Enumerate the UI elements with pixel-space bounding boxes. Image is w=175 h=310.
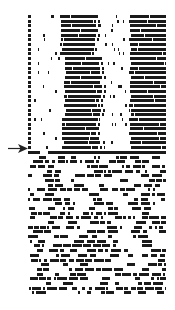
activity-segment — [130, 81, 153, 84]
raster-row — [28, 268, 166, 271]
activity-segment — [28, 226, 33, 229]
activity-segment — [145, 76, 166, 79]
activity-segment — [119, 52, 120, 55]
activity-segment — [130, 15, 149, 18]
activity-segment — [129, 104, 133, 107]
activity-segment — [112, 113, 113, 116]
activity-segment — [136, 170, 140, 173]
activity-segment — [62, 132, 90, 135]
activity-segment — [131, 34, 144, 37]
activity-segment — [129, 20, 147, 23]
activity-segment — [115, 216, 122, 219]
activity-segment — [65, 67, 72, 70]
activity-segment — [152, 165, 160, 168]
raster-row — [28, 29, 166, 32]
activity-segment — [63, 207, 65, 210]
activity-segment — [145, 287, 154, 290]
activity-segment — [82, 62, 99, 65]
activity-segment — [97, 198, 102, 201]
activity-segment — [96, 160, 99, 163]
activity-segment — [68, 221, 77, 224]
activity-segment — [157, 57, 166, 60]
activity-segment — [130, 29, 140, 32]
activity-segment — [43, 287, 45, 290]
activity-segment — [152, 221, 160, 224]
activity-segment — [60, 15, 70, 18]
activity-segment — [28, 99, 31, 102]
raster-row — [28, 259, 166, 262]
activity-segment — [30, 254, 39, 257]
activity-segment — [124, 249, 128, 252]
activity-segment — [96, 268, 101, 271]
activity-segment — [28, 127, 31, 130]
raster-row — [28, 146, 166, 149]
activity-segment — [162, 249, 166, 252]
activity-segment — [114, 268, 123, 271]
activity-segment — [72, 24, 96, 27]
activity-segment — [91, 71, 100, 74]
activity-segment — [32, 287, 41, 290]
activity-segment — [133, 235, 136, 238]
raster-row — [28, 104, 166, 107]
raster-row — [28, 15, 166, 18]
raster-row — [28, 287, 166, 290]
activity-segment — [28, 137, 31, 140]
activity-segment — [124, 291, 131, 294]
activity-segment — [85, 160, 94, 163]
activity-segment — [36, 291, 46, 294]
activity-segment — [112, 170, 122, 173]
activity-segment — [37, 273, 43, 276]
activity-segment — [43, 198, 52, 201]
raster-row — [28, 160, 166, 163]
activity-segment — [74, 188, 80, 191]
activity-segment — [163, 273, 165, 276]
activity-segment — [94, 156, 96, 159]
activity-segment — [142, 240, 152, 243]
activity-segment — [165, 287, 166, 290]
activity-segment — [104, 174, 112, 177]
activity-segment — [144, 282, 151, 285]
activity-segment — [141, 202, 150, 205]
activity-segment — [134, 184, 141, 187]
raster-row — [28, 95, 166, 98]
activity-segment — [157, 291, 164, 294]
activity-segment — [28, 48, 31, 51]
activity-segment — [154, 95, 166, 98]
activity-segment — [55, 137, 57, 140]
activity-segment — [87, 249, 96, 252]
activity-segment — [68, 212, 70, 215]
activity-segment — [63, 43, 95, 46]
raster-row — [28, 188, 166, 191]
activity-segment — [128, 216, 131, 219]
raster-plot — [28, 15, 166, 296]
activity-segment — [98, 34, 100, 37]
activity-segment — [116, 287, 123, 290]
activity-segment — [104, 85, 106, 88]
activity-segment — [82, 287, 85, 290]
activity-segment — [43, 212, 50, 215]
activity-segment — [55, 179, 60, 182]
activity-segment — [75, 174, 85, 177]
activity-segment — [66, 123, 96, 126]
arrow-marker-icon — [8, 144, 28, 153]
raster-row — [28, 193, 166, 196]
activity-segment — [58, 216, 63, 219]
activity-segment — [28, 151, 40, 154]
activity-segment — [144, 127, 166, 130]
activity-segment — [117, 160, 125, 163]
activity-segment — [137, 287, 143, 290]
activity-segment — [40, 226, 46, 229]
activity-segment — [105, 259, 111, 262]
activity-segment — [69, 277, 78, 280]
activity-segment — [61, 254, 70, 257]
activity-segment — [34, 226, 39, 229]
activity-segment — [90, 221, 99, 224]
activity-segment — [157, 277, 159, 280]
activity-segment — [162, 165, 165, 168]
activity-segment — [33, 160, 43, 163]
raster-row — [28, 81, 166, 84]
activity-segment — [159, 226, 163, 229]
raster-figure — [0, 0, 175, 310]
activity-segment — [52, 226, 60, 229]
activity-segment — [142, 268, 149, 271]
